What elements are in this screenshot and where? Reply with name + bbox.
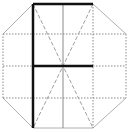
octagon-grid-diagram xyxy=(0,0,130,132)
octagon-edge xyxy=(93,4,126,34)
octagon-edge xyxy=(93,98,126,128)
octagon-edge xyxy=(3,98,33,128)
octagon-edge xyxy=(3,4,33,34)
